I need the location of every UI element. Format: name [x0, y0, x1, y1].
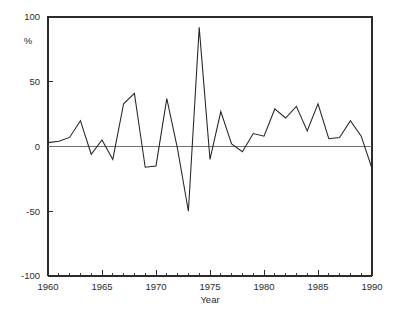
y-tick-label: -100: [21, 270, 40, 281]
x-tick-label: 1965: [91, 281, 112, 292]
line-chart-svg: 100500-50-100 19601965197019751980198519…: [0, 0, 407, 323]
x-axis-title: Year: [200, 294, 219, 305]
x-tick-label: 1970: [145, 281, 166, 292]
x-axis-ticks: [48, 270, 372, 276]
y-axis-tick-labels: 100500-50-100: [21, 11, 40, 281]
x-axis-tick-labels: 1960196519701975198019851990: [37, 281, 382, 292]
x-tick-label: 1990: [361, 281, 382, 292]
x-tick-label: 1960: [37, 281, 58, 292]
chart-figure: 100500-50-100 19601965197019751980198519…: [0, 0, 407, 323]
y-tick-label: 100: [24, 11, 40, 22]
x-tick-label: 1975: [199, 281, 220, 292]
y-tick-label: -50: [26, 206, 40, 217]
y-axis-title: %: [24, 35, 33, 46]
x-tick-label: 1985: [307, 281, 328, 292]
y-tick-label: 50: [29, 76, 40, 87]
data-series-line: [48, 27, 372, 211]
x-tick-label: 1980: [253, 281, 274, 292]
caption-clipped-strip: [0, 315, 407, 323]
y-tick-label: 0: [35, 141, 40, 152]
